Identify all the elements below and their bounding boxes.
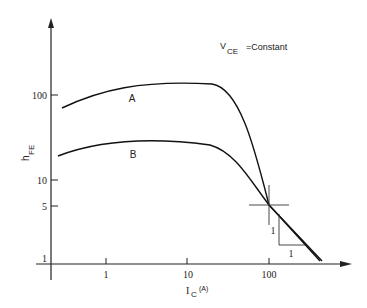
y-tick-5: 5 xyxy=(42,201,47,212)
svg-text:C: C xyxy=(191,290,197,299)
svg-text:=Constant: =Constant xyxy=(246,42,288,52)
curve-a-label: A xyxy=(129,93,136,104)
y-axis-label: h FE xyxy=(20,145,36,161)
y-tick-1: 1 xyxy=(42,253,47,264)
x-tick-10: 10 xyxy=(183,269,193,280)
chart: 100 10 5 1 1 10 100 A B 1 1 V CE =Consta… xyxy=(0,0,367,308)
curve-b xyxy=(58,141,322,261)
x-tick-100: 100 xyxy=(262,269,277,280)
svg-text:I: I xyxy=(186,285,189,296)
slope-horizontal-label: 1 xyxy=(289,248,294,259)
svg-text:FE: FE xyxy=(27,145,36,155)
svg-text:h: h xyxy=(20,155,31,161)
vce-annotation: V CE =Constant xyxy=(220,41,288,56)
y-tick-10: 10 xyxy=(37,175,47,186)
svg-text:V: V xyxy=(220,41,226,51)
y-tick-100: 100 xyxy=(32,90,47,101)
x-axis-label: I C (A) xyxy=(186,285,208,299)
x-tick-1: 1 xyxy=(104,269,109,280)
svg-text:(A): (A) xyxy=(199,285,208,293)
x-axis-arrow-icon xyxy=(340,261,352,267)
curve-b-label: B xyxy=(130,149,137,160)
y-axis-arrow-icon xyxy=(48,18,54,28)
curve-a xyxy=(62,83,320,261)
slope-vertical-label: 1 xyxy=(271,225,276,236)
svg-text:CE: CE xyxy=(227,47,238,56)
